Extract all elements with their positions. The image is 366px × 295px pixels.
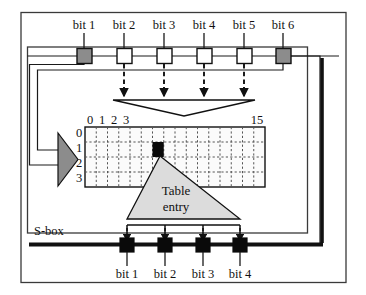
output-bit-label-2: bit 2 xyxy=(154,267,177,281)
input-bit-box-5[interactable] xyxy=(237,49,252,64)
input-bit-label-6: bit 6 xyxy=(272,18,295,32)
sbox-diagram: bit 1 bit 2 bit 3 bit 4 bit 5 bit 6 0 1 … xyxy=(0,0,366,295)
table-entry-label-line1: Table xyxy=(162,183,191,198)
table-col-header-0: 0 xyxy=(87,113,93,127)
selected-table-cell[interactable] xyxy=(153,142,164,157)
input-bit-label-1: bit 1 xyxy=(73,18,96,32)
sbox-label: S-box xyxy=(34,224,65,238)
output-bit-label-3: bit 3 xyxy=(192,267,215,281)
input-bit-box-1[interactable] xyxy=(77,49,92,64)
table-col-header-3: 3 xyxy=(123,113,129,127)
input-bit-label-3: bit 3 xyxy=(153,18,176,32)
diagram-canvas: bit 1 bit 2 bit 3 bit 4 bit 5 bit 6 0 1 … xyxy=(0,0,366,295)
output-bit-box-1[interactable] xyxy=(120,238,134,252)
input-bit-label-5: bit 5 xyxy=(233,18,256,32)
input-bit-box-6[interactable] xyxy=(276,49,291,64)
input-bit-label-2: bit 2 xyxy=(113,18,136,32)
table-row-header-1: 1 xyxy=(76,141,82,155)
input-bit-label-4: bit 4 xyxy=(193,18,216,32)
output-bit-box-2[interactable] xyxy=(158,238,172,252)
table-col-header-1: 1 xyxy=(99,113,105,127)
output-bit-box-4[interactable] xyxy=(233,238,247,252)
output-bit-label-4: bit 4 xyxy=(229,267,252,281)
table-row-header-0: 0 xyxy=(76,126,82,140)
table-entry-label-line2: entry xyxy=(163,199,190,214)
table-row-header-3: 3 xyxy=(76,171,82,185)
output-bit-label-1: bit 1 xyxy=(116,267,139,281)
input-bit-box-4[interactable] xyxy=(197,49,212,64)
table-col-header-15: 15 xyxy=(251,113,264,127)
table-col-header-2: 2 xyxy=(111,113,117,127)
input-bit-box-2[interactable] xyxy=(117,49,132,64)
output-bit-box-3[interactable] xyxy=(196,238,210,252)
input-bit-box-3[interactable] xyxy=(157,49,172,64)
